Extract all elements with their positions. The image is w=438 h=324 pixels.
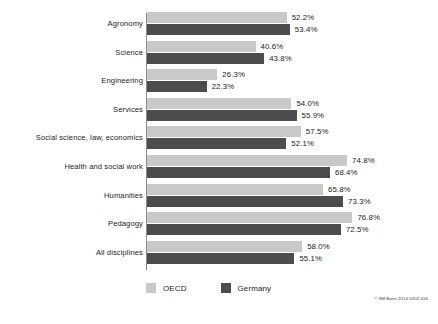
bar-germany: [147, 138, 286, 149]
category-label: All disciplines: [0, 247, 143, 258]
bar-group: Health and social work74.8%68.4%: [0, 154, 438, 182]
bar-rect-germany: [147, 24, 290, 35]
bar-rect-oecd: [147, 155, 347, 166]
bar-rect-germany: [147, 138, 286, 149]
bar-value-label: 74.8%: [352, 156, 375, 166]
bar-rect-oecd: [147, 69, 217, 80]
bar-group: All disciplines58.0%55.1%: [0, 240, 438, 268]
bar-rect-oecd: [147, 41, 256, 52]
category-label: Engineering: [0, 75, 143, 86]
bar-value-label: 76.8%: [357, 213, 380, 223]
bar-value-label: 73.3%: [348, 197, 371, 207]
bar-rect-oecd: [147, 184, 323, 195]
bar-rect-germany: [147, 53, 264, 64]
bar-oecd: [147, 12, 287, 23]
bar-rect-oecd: [147, 126, 301, 137]
chart-legend: OECDGermany: [146, 282, 305, 294]
bar-value-label: 26.3%: [222, 70, 245, 80]
bar-value-label: 52.1%: [291, 139, 314, 149]
bar-value-label: 52.2%: [292, 13, 315, 23]
bar-rect-oecd: [147, 98, 291, 109]
bar-germany: [147, 53, 264, 64]
legend-swatch-icon: [221, 283, 231, 293]
category-label: Services: [0, 104, 143, 115]
bar-rect-germany: [147, 167, 330, 178]
bar-value-label: 43.8%: [269, 54, 292, 64]
bar-group: Services54.0%55.9%: [0, 97, 438, 125]
bar-value-label: 53.4%: [295, 25, 318, 35]
bar-oecd: [147, 41, 256, 52]
bar-rect-germany: [147, 253, 294, 264]
bar-germany: [147, 24, 290, 35]
bar-value-label: 58.0%: [307, 242, 330, 252]
bar-oecd: [147, 98, 291, 109]
category-label: Agronomy: [0, 18, 143, 29]
bar-value-label: 54.0%: [296, 99, 319, 109]
credit-note: © IfM Bonn 2014 0202 016: [374, 296, 428, 302]
bar-germany: [147, 81, 207, 92]
bar-value-label: 57.5%: [306, 127, 329, 137]
bar-value-label: 55.9%: [302, 111, 325, 121]
bar-oecd: [147, 184, 323, 195]
bar-oecd: [147, 212, 352, 223]
bar-value-label: 22.3%: [212, 82, 235, 92]
bar-value-label: 65.8%: [328, 185, 351, 195]
bar-group: Agronomy52.2%53.4%: [0, 11, 438, 39]
bar-value-label: 72.5%: [346, 225, 369, 235]
bar-value-label: 55.1%: [299, 254, 322, 264]
category-label: Social science, law, economics: [0, 132, 143, 143]
legend-swatch-icon: [146, 283, 156, 293]
legend-item-germany[interactable]: Germany: [221, 283, 272, 293]
legend-label: OECD: [163, 284, 187, 293]
bar-rect-germany: [147, 196, 343, 207]
bar-germany: [147, 224, 341, 235]
bar-rect-germany: [147, 110, 297, 121]
bar-germany: [147, 167, 330, 178]
bar-value-label: 68.4%: [335, 168, 358, 178]
category-label: Humanities: [0, 190, 143, 201]
bar-chart: Agronomy52.2%53.4%Science40.6%43.8%Engin…: [0, 0, 438, 324]
bar-value-label: 40.6%: [261, 42, 284, 52]
bar-group: Pedagogy76.8%72.5%: [0, 211, 438, 239]
category-label: Science: [0, 47, 143, 58]
bar-group: Social science, law, economics57.5%52.1%: [0, 125, 438, 153]
bar-oecd: [147, 69, 217, 80]
plot-area: Agronomy52.2%53.4%Science40.6%43.8%Engin…: [0, 8, 438, 270]
bar-rect-oecd: [147, 241, 302, 252]
bar-rect-germany: [147, 81, 207, 92]
category-label: Pedagogy: [0, 218, 143, 229]
bar-oecd: [147, 241, 302, 252]
bar-group: Science40.6%43.8%: [0, 40, 438, 68]
bar-oecd: [147, 126, 301, 137]
bar-germany: [147, 196, 343, 207]
bar-group: Engineering26.3%22.3%: [0, 68, 438, 96]
bar-rect-oecd: [147, 212, 352, 223]
bar-group: Humanities65.8%73.3%: [0, 183, 438, 211]
legend-label: Germany: [238, 284, 272, 293]
category-label: Health and social work: [0, 161, 143, 172]
bar-rect-germany: [147, 224, 341, 235]
bar-germany: [147, 110, 297, 121]
bar-oecd: [147, 155, 347, 166]
legend-item-oecd[interactable]: OECD: [146, 283, 187, 293]
bar-germany: [147, 253, 294, 264]
bar-rect-oecd: [147, 12, 287, 23]
